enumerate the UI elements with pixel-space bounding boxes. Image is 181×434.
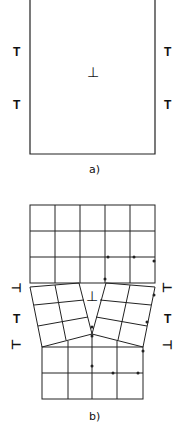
caption-a: a) — [89, 163, 100, 176]
symbol-b-left-2: T — [13, 312, 20, 326]
symbol-b-right-1: ⊢ — [162, 281, 172, 295]
t-symbol-left-1: T — [13, 45, 20, 59]
dislocation-symbol-a: ⊥ — [87, 64, 99, 80]
symbol-b-right-2: T — [164, 312, 171, 326]
t-symbol-right-2: T — [164, 98, 171, 112]
symbol-b-right-3: ⊣ — [162, 338, 172, 352]
dislocation-symbol-b: ⊥ — [86, 288, 98, 304]
t-symbol-right-1: T — [164, 45, 171, 59]
t-symbol-left-2: T — [13, 98, 20, 112]
symbol-b-left-1: ⊣ — [11, 281, 21, 295]
caption-b: b) — [89, 410, 100, 423]
symbol-b-left-3: ⊢ — [11, 338, 21, 352]
